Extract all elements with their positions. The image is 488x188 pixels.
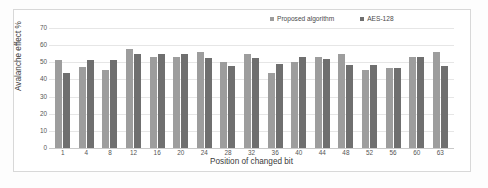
bar[interactable] [346, 65, 353, 148]
y-axis-tick-label: 50 [40, 59, 47, 65]
bar[interactable] [150, 57, 157, 148]
bar[interactable] [315, 57, 322, 148]
bar[interactable] [87, 60, 94, 148]
bar[interactable] [55, 60, 62, 148]
y-axis-tick-label: 10 [40, 128, 47, 134]
legend-label: AES-128 [367, 16, 393, 23]
x-axis-tick-label: 20 [169, 150, 193, 156]
bar-group [98, 28, 122, 148]
x-axis-tick-label: 32 [240, 150, 264, 156]
y-axis-title: Avalanche effect % [15, 13, 23, 99]
bar[interactable] [409, 57, 416, 148]
y-axis-tick-label: 30 [40, 93, 47, 99]
bar-group [429, 28, 453, 148]
x-axis-tick-label: 56 [381, 150, 405, 156]
bar[interactable] [102, 70, 109, 148]
bar-group [311, 28, 335, 148]
legend-label: Proposed algorithm [277, 16, 334, 23]
bar-group [287, 28, 311, 148]
bar-group [263, 28, 287, 148]
x-axis-title: Position of changed bit [49, 158, 454, 166]
legend-entry[interactable]: Proposed algorithm [270, 16, 334, 23]
y-axis-tick-labels: 010203040506070 [30, 28, 47, 148]
bar[interactable] [220, 62, 227, 148]
bar[interactable] [126, 49, 133, 148]
x-axis-tick-labels: 1481216202428323640444852566063 [49, 150, 454, 156]
bar-groups [49, 28, 454, 148]
bar[interactable] [228, 66, 235, 148]
x-axis-tick-label: 8 [98, 150, 122, 156]
bar-group [75, 28, 99, 148]
bar[interactable] [362, 70, 369, 149]
plot-area [49, 28, 454, 148]
bar[interactable] [205, 58, 212, 148]
x-axis-tick-label: 44 [311, 150, 335, 156]
bar[interactable] [323, 59, 330, 148]
bar[interactable] [79, 67, 86, 148]
bar[interactable] [63, 73, 70, 148]
bar-group [122, 28, 146, 148]
y-axis-tick-label: 70 [40, 25, 47, 31]
bar[interactable] [268, 73, 275, 148]
bar[interactable] [386, 68, 393, 148]
square-marker [360, 17, 364, 21]
bar-group [216, 28, 240, 148]
x-axis-tick-label: 40 [287, 150, 311, 156]
bar-group [51, 28, 75, 148]
bar[interactable] [441, 66, 448, 148]
bar-group [334, 28, 358, 148]
bar[interactable] [110, 60, 117, 148]
bar[interactable] [338, 54, 345, 148]
bar-group [145, 28, 169, 148]
y-axis-tick-label: 60 [40, 42, 47, 48]
bar[interactable] [433, 52, 440, 148]
square-marker [270, 17, 274, 21]
bar[interactable] [291, 62, 298, 148]
x-axis-tick-label: 12 [122, 150, 146, 156]
bar[interactable] [252, 58, 259, 148]
bar[interactable] [244, 54, 251, 148]
x-axis-tick-label: 63 [429, 150, 453, 156]
x-axis-tick-label: 24 [193, 150, 217, 156]
bar[interactable] [181, 54, 188, 148]
bar[interactable] [158, 54, 165, 148]
x-axis-tick-label: 16 [145, 150, 169, 156]
bar-group [381, 28, 405, 148]
x-axis-tick-label: 60 [405, 150, 429, 156]
bar[interactable] [197, 52, 204, 149]
x-axis-tick-label: 36 [263, 150, 287, 156]
bar[interactable] [134, 54, 141, 148]
bar[interactable] [173, 57, 180, 148]
bar[interactable] [299, 57, 306, 148]
bar[interactable] [417, 57, 424, 148]
figure-root: Proposed algorithmAES-128 Avalanche effe… [0, 0, 488, 188]
bar-group [405, 28, 429, 148]
y-axis-tick-label: 0 [43, 145, 47, 151]
chart-legend: Proposed algorithmAES-128 [270, 13, 394, 25]
y-axis-tick-label: 20 [40, 111, 47, 117]
legend-entry[interactable]: AES-128 [360, 16, 393, 23]
x-axis-tick-label: 1 [51, 150, 75, 156]
bar-group [358, 28, 382, 148]
bar[interactable] [394, 68, 401, 148]
bar-group [240, 28, 264, 148]
y-axis-tick-label: 40 [40, 76, 47, 82]
x-axis-tick-label: 4 [75, 150, 99, 156]
x-axis-tick-label: 52 [358, 150, 382, 156]
bar[interactable] [276, 64, 283, 149]
bar-group [193, 28, 217, 148]
x-axis-tick-label: 28 [216, 150, 240, 156]
x-axis-tick-label: 48 [334, 150, 358, 156]
bar[interactable] [370, 65, 377, 148]
bar-group [169, 28, 193, 148]
